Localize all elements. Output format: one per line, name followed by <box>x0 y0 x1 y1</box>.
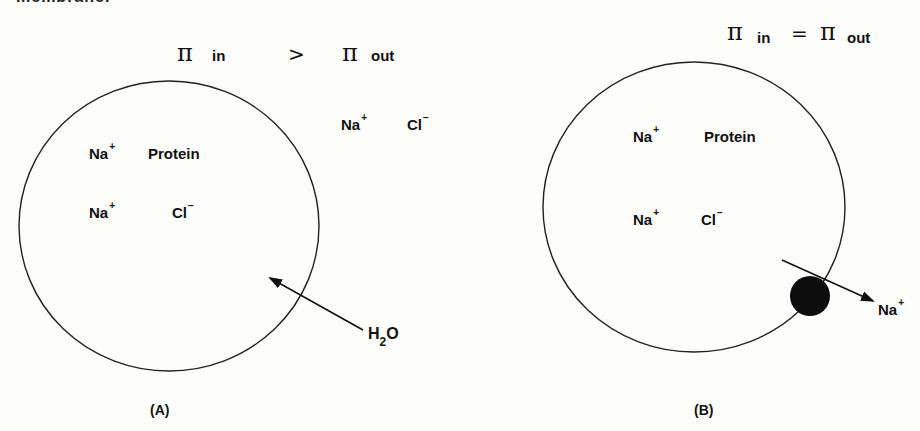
water-influx-arrow <box>270 278 363 330</box>
pi-out-symbol-b: π <box>820 20 836 44</box>
outside-ion-cl-a: Cl− <box>407 117 429 132</box>
panel-label-a: (A) <box>150 402 169 418</box>
pi-in-symbol-a: π <box>177 41 193 65</box>
panel-label-b: (B) <box>694 402 713 418</box>
diagram-canvas <box>0 0 920 431</box>
inside-cl-b: Cl− <box>701 212 723 227</box>
osmotic-pressure-diagram: membrane. π in > π out Na+ Cl− Na+ Prote… <box>0 0 920 431</box>
pi-out-sub-a: out <box>371 48 394 63</box>
pi-out-symbol-a: π <box>342 41 358 65</box>
inside-na-1-b: Na+ <box>633 129 659 144</box>
inside-na-2-b: Na+ <box>633 212 659 227</box>
inside-na-2-a: Na+ <box>89 205 115 220</box>
pi-out-sub-b: out <box>847 30 870 45</box>
cell-membrane-a <box>19 81 319 371</box>
inside-protein-b: Protein <box>704 129 756 144</box>
operator-greater-than: > <box>288 44 305 64</box>
pi-in-symbol-b: π <box>727 20 743 44</box>
outside-ion-na-a: Na+ <box>341 117 367 132</box>
pi-in-sub-a: in <box>212 48 225 63</box>
sodium-efflux-label: Na+ <box>878 302 904 317</box>
water-label: H2O <box>368 326 399 342</box>
inside-na-1-a: Na+ <box>89 146 115 161</box>
operator-equals: = <box>791 23 808 43</box>
inside-protein-a: Protein <box>148 146 200 161</box>
sodium-pump-icon <box>790 276 830 316</box>
pi-in-sub-b: in <box>757 30 770 45</box>
inside-cl-a: Cl− <box>172 205 194 220</box>
